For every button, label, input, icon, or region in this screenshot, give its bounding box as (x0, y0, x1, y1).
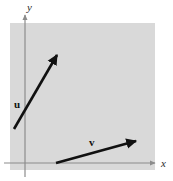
figure-canvas: y x u v (0, 0, 173, 181)
vector-v-label: v (89, 136, 95, 148)
vector-u-label: u (14, 98, 20, 110)
y-axis-label: y (26, 1, 32, 13)
x-axis-label: x (160, 157, 166, 169)
vector-figure: y x u v (0, 0, 173, 181)
